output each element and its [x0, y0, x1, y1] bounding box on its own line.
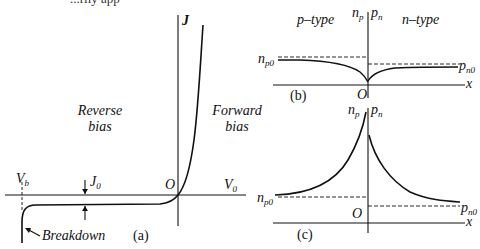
vb-subscript: b [25, 178, 30, 188]
forward-bias-label: Forward bias [207, 103, 267, 135]
b-pn-curve [368, 67, 458, 81]
j-axis-label: J [182, 14, 189, 28]
c-x-axis-label: x [466, 215, 472, 229]
b-pn-axis-label: pn [371, 6, 383, 22]
bias-label: bias [225, 119, 248, 134]
bias-label: bias [88, 119, 111, 134]
v0-axis-label: V0 [224, 178, 237, 194]
caption-c: (c) [297, 228, 313, 242]
np0-subscript: p0 [265, 58, 274, 68]
b-np-axis-label: np [352, 6, 364, 22]
breakdown-label: Breakdown [42, 229, 105, 243]
caption-a: (a) [133, 229, 149, 243]
p-type-label: p–type [297, 13, 334, 27]
vb-symbol: V [16, 171, 25, 186]
vb-label: Vb [16, 172, 29, 188]
np-symbol: n [352, 5, 359, 20]
np0-symbol: n [257, 190, 264, 205]
c-np-axis-label: np [348, 103, 360, 119]
v-symbol: V [224, 177, 233, 192]
b-x-axis-label: x [466, 77, 472, 91]
c-pn-axis-label: pn [371, 103, 383, 119]
origin-label-a: O [165, 178, 175, 192]
b-pn0-label: pn0 [459, 59, 475, 75]
j0-label: J0 [90, 175, 101, 191]
caption-b: (b) [290, 89, 306, 103]
reverse-label: Reverse [78, 103, 122, 118]
n-type-label: n–type [402, 13, 439, 27]
origin-label-c: O [352, 207, 362, 221]
np-symbol: n [348, 102, 355, 117]
b-np0-label: np0 [258, 52, 274, 68]
pn-subscript: n [378, 109, 383, 119]
b-np-curve [278, 60, 368, 82]
pn-symbol: p [371, 102, 378, 117]
pn0-symbol: p [459, 58, 466, 73]
c-pn-curve [369, 135, 460, 202]
reverse-bias-label: Reverse bias [70, 103, 130, 135]
v-subscript: 0 [233, 184, 238, 194]
j0-subscript: 0 [96, 181, 101, 191]
forward-label: Forward [212, 103, 261, 118]
np0-subscript: p0 [264, 197, 273, 207]
np0-symbol: n [258, 51, 265, 66]
pn-subscript: n [378, 12, 383, 22]
np-subscript: p [359, 12, 364, 22]
np-subscript: p [355, 109, 360, 119]
origin-label-b: O [357, 88, 367, 102]
pn0-symbol: p [461, 200, 468, 215]
c-np0-label: np0 [257, 191, 273, 207]
pn-symbol: p [371, 5, 378, 20]
c-np-curve [275, 112, 366, 195]
pn0-subscript: n0 [466, 65, 475, 75]
